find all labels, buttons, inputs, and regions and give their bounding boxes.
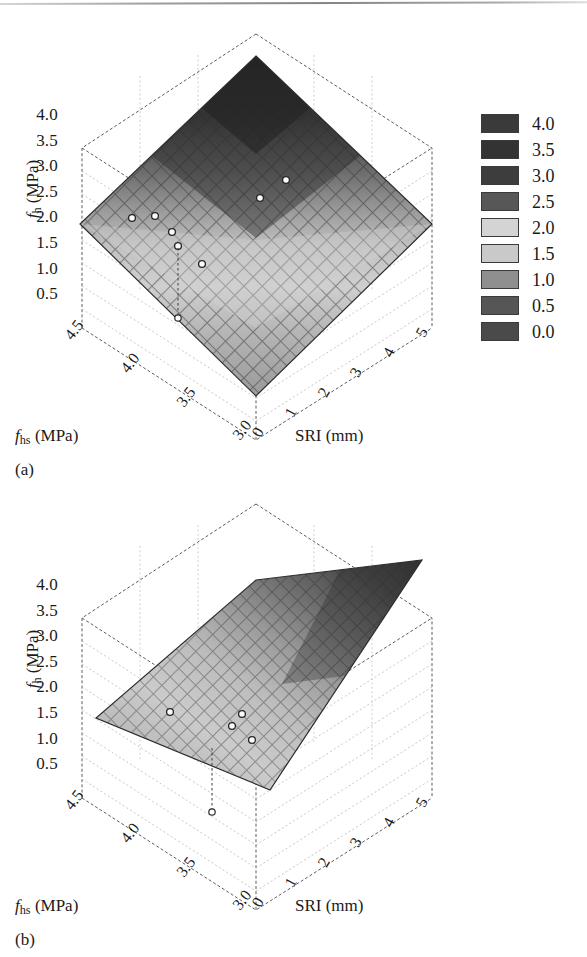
plot-a-surface-scene xyxy=(60,28,440,418)
plot-b-zaxis-ticks: 4.03.53.02.52.01.51.00.5 xyxy=(12,498,58,888)
legend-label: 0.5 xyxy=(532,297,555,315)
plot-a-xaxis-label: fhs (MPa) xyxy=(15,426,78,448)
legend-label: 2.0 xyxy=(532,219,555,237)
legend-swatch xyxy=(481,192,519,211)
scan-artifact-line xyxy=(0,1,587,5)
legend-row: 2.0 xyxy=(481,218,581,237)
plot-a-legend: 4.03.53.02.52.01.51.00.50.0 xyxy=(481,114,581,348)
legend-swatch xyxy=(481,322,519,341)
legend-label: 0.0 xyxy=(532,323,555,341)
legend-row: 1.5 xyxy=(481,244,581,263)
legend-row: 0.0 xyxy=(481,322,581,341)
legend-swatch xyxy=(481,270,519,289)
z-tick-label: 1.5 xyxy=(36,234,58,251)
legend-row: 3.5 xyxy=(481,140,581,159)
y-tick-label: 0 xyxy=(249,895,267,910)
legend-label: 1.0 xyxy=(532,271,555,289)
plot-b-surface-scene xyxy=(60,498,440,888)
plot-b-xaxis-label: fhs (MPa) xyxy=(15,896,78,918)
z-tick-label: 2.0 xyxy=(36,208,58,225)
legend-swatch xyxy=(481,244,519,263)
plot-b-caption: (b) xyxy=(15,930,35,950)
plot-b-yaxis-label: SRI (mm) xyxy=(295,896,363,916)
plot-b-area: fh (MPa) 4.03.53.02.52.01.51.00.5 xyxy=(60,498,440,888)
y-tick-label: 0 xyxy=(249,425,267,440)
legend-swatch xyxy=(481,166,519,185)
legend-swatch xyxy=(481,296,519,315)
plot-a-area: fh (MPa) 4.03.53.02.52.01.51.00.5 xyxy=(60,28,440,418)
legend-swatch xyxy=(481,218,519,237)
z-tick-label: 2.0 xyxy=(36,678,58,695)
z-tick-label: 1.5 xyxy=(36,704,58,721)
legend-row: 3.0 xyxy=(481,166,581,185)
z-tick-label: 4.0 xyxy=(36,576,58,593)
z-tick-label: 1.0 xyxy=(36,730,58,747)
panel-a: fh (MPa) 4.03.53.02.52.01.51.00.5 xyxy=(0,10,587,488)
z-tick-label: 0.5 xyxy=(36,755,58,772)
z-tick-label: 2.5 xyxy=(36,653,58,670)
legend-label: 4.0 xyxy=(532,115,555,133)
legend-label: 1.5 xyxy=(532,245,555,263)
z-tick-label: 0.5 xyxy=(36,285,58,302)
z-tick-label: 3.0 xyxy=(36,157,58,174)
legend-label: 3.0 xyxy=(532,167,555,185)
z-tick-label: 3.5 xyxy=(36,132,58,149)
z-tick-label: 2.5 xyxy=(36,183,58,200)
legend-row: 0.5 xyxy=(481,296,581,315)
legend-swatch xyxy=(481,114,519,133)
plot-a-zaxis-ticks: 4.03.53.02.52.01.51.00.5 xyxy=(12,28,58,418)
z-tick-label: 4.0 xyxy=(36,106,58,123)
z-tick-label: 1.0 xyxy=(36,260,58,277)
legend-row: 4.0 xyxy=(481,114,581,133)
z-tick-label: 3.5 xyxy=(36,602,58,619)
legend-row: 1.0 xyxy=(481,270,581,289)
panel-b: fh (MPa) 4.03.53.02.52.01.51.00.5 xyxy=(0,480,587,957)
legend-label: 3.5 xyxy=(532,141,555,159)
plot-a-yaxis-label: SRI (mm) xyxy=(295,426,363,446)
plot-a-caption: (a) xyxy=(15,460,34,480)
legend-row: 2.5 xyxy=(481,192,581,211)
legend-swatch xyxy=(481,140,519,159)
legend-label: 2.5 xyxy=(532,193,555,211)
z-tick-label: 3.0 xyxy=(36,627,58,644)
